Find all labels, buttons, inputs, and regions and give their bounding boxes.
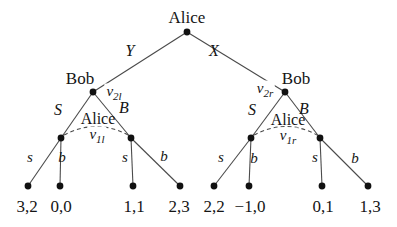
action-label-S-left: S <box>54 102 62 118</box>
node-id-v1r: v1r <box>278 128 298 143</box>
node-terminal-3 <box>130 183 137 190</box>
node-terminal-7 <box>319 183 326 190</box>
node-id-v2r-sub: 2r <box>263 87 273 99</box>
root-player-label: Alice <box>169 9 206 26</box>
node-id-v2r: v2r <box>255 81 275 96</box>
edge-v1lR-s <box>131 138 133 186</box>
payoff-6: −1,0 <box>235 198 266 215</box>
payoff-5: 2,2 <box>203 198 224 215</box>
node-v1r-left <box>248 135 255 142</box>
payoff-3: 1,1 <box>123 198 144 215</box>
payoff-1: 3,2 <box>16 198 37 215</box>
action-label-b-1: b <box>58 150 66 165</box>
node-terminal-8 <box>365 183 372 190</box>
node-terminal-5 <box>211 183 218 190</box>
node-id-v1r-sub: 1r <box>286 134 296 146</box>
action-label-B-right: B <box>299 101 309 117</box>
node-id-v1r-base: v <box>280 127 287 143</box>
action-label-S-right: S <box>248 102 256 118</box>
edge-v1rR-s <box>320 138 322 186</box>
node-terminal-6 <box>246 183 253 190</box>
payoff-8: 1,3 <box>359 198 380 215</box>
payoff-2: 0,0 <box>50 198 71 215</box>
action-label-B-left: B <box>119 100 129 116</box>
action-label-b-2: b <box>160 149 168 164</box>
node-id-v1l-base: v <box>89 126 96 142</box>
node-v1l-left <box>58 135 65 142</box>
action-label-X: X <box>209 43 219 59</box>
bob-right-player-label: Bob <box>282 70 310 87</box>
node-root <box>184 29 191 36</box>
node-id-v1l: v1l <box>87 127 106 142</box>
node-id-v2r-base: v <box>257 80 264 96</box>
action-label-s-4: s <box>312 150 318 165</box>
action-label-b-4: b <box>351 151 359 166</box>
node-id-v2l: v2l <box>104 84 123 99</box>
node-terminal-1 <box>25 183 32 190</box>
edge-v1lR-b <box>131 138 180 186</box>
node-v1l-right <box>128 135 135 142</box>
action-label-Y: Y <box>126 43 135 59</box>
action-label-s-1: s <box>27 150 33 165</box>
action-label-s-3: s <box>218 150 224 165</box>
action-label-s-2: s <box>122 150 128 165</box>
game-tree-figure: Alice Bob Bob Alice Alice v2l v2r v1l v1… <box>0 0 397 227</box>
node-bob-left <box>90 89 97 96</box>
node-bob-right <box>282 89 289 96</box>
node-v1r-right <box>317 135 324 142</box>
action-label-b-3: b <box>250 151 258 166</box>
infoset-left-player-label: Alice <box>81 111 116 127</box>
node-terminal-4 <box>177 183 184 190</box>
payoff-4: 2,3 <box>168 198 189 215</box>
node-terminal-2 <box>57 183 64 190</box>
node-id-v1l-sub: 1l <box>96 133 105 145</box>
node-id-v2l-base: v <box>106 83 113 99</box>
edge-v1rR-b <box>320 138 368 186</box>
payoff-7: 0,1 <box>312 198 333 215</box>
bob-left-player-label: Bob <box>66 70 94 87</box>
